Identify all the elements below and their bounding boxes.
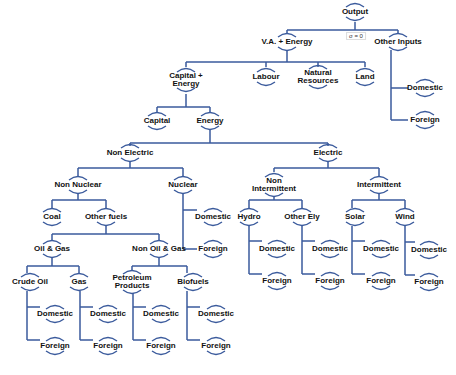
node-co-domestic: Domestic: [37, 310, 73, 318]
node-biofuels: Biofuels: [177, 278, 209, 286]
node-electric: Electric: [314, 149, 343, 157]
node-other-inputs: Other Inputs: [374, 38, 422, 46]
node-so-domestic: Domestic: [363, 245, 399, 253]
node-non-electric: Non Electric: [107, 149, 154, 157]
node-non-intermittent: NonIntermittent: [252, 177, 296, 193]
elasticity-label: σ = 0: [346, 32, 366, 40]
node-other-ely: Other Ely: [284, 213, 320, 221]
node-labour: Labour: [252, 73, 279, 81]
node-hydro: Hydro: [237, 213, 260, 221]
node-oi-domestic: Domestic: [407, 84, 443, 92]
node-hy-foreign: Foreign: [262, 277, 291, 285]
node-land: Land: [355, 73, 374, 81]
node-va-energy: V.A. + Energy: [261, 38, 312, 46]
node-nuc-foreign: Foreign: [198, 245, 227, 253]
node-wi-foreign: Foreign: [414, 278, 443, 286]
node-nuclear: Nuclear: [168, 181, 197, 189]
node-oi-foreign: Foreign: [410, 116, 439, 124]
node-capital-energy: Capital +Energy: [169, 72, 203, 88]
node-bf-foreign: Foreign: [201, 342, 230, 350]
node-coal: Coal: [43, 213, 60, 221]
node-nuc-domestic: Domestic: [195, 213, 231, 221]
node-solar: Solar: [345, 213, 365, 221]
node-co-foreign: Foreign: [40, 342, 69, 350]
node-crude-oil: Crude Oil: [12, 278, 48, 286]
node-capital: Capital: [144, 117, 171, 125]
node-oe-domestic: Domestic: [312, 245, 348, 253]
node-wind: Wind: [395, 213, 414, 221]
node-hy-domestic: Domestic: [259, 245, 295, 253]
node-pp-domestic: Domestic: [143, 310, 179, 318]
node-output: Output: [342, 8, 368, 16]
node-so-foreign: Foreign: [366, 277, 395, 285]
node-oe-foreign: Foreign: [315, 277, 344, 285]
node-other-fuels: Other fuels: [85, 213, 127, 221]
node-non-nuclear: Non Nuclear: [54, 181, 101, 189]
node-bf-domestic: Domestic: [198, 310, 234, 318]
node-gas: Gas: [71, 278, 86, 286]
node-natural-resources: NaturalResources: [298, 69, 339, 85]
node-gas-domestic: Domestic: [90, 310, 126, 318]
node-non-oil-gas: Non Oil & Gas: [132, 245, 186, 253]
node-pp-foreign: Foreign: [146, 342, 175, 350]
node-petroleum: PetroleumProducts: [112, 274, 151, 290]
node-gas-foreign: Foreign: [93, 342, 122, 350]
node-oil-gas: Oil & Gas: [34, 245, 70, 253]
node-wi-domestic: Domestic: [411, 246, 447, 254]
node-energy: Energy: [196, 117, 223, 125]
node-intermittent: Intermittent: [357, 181, 401, 189]
